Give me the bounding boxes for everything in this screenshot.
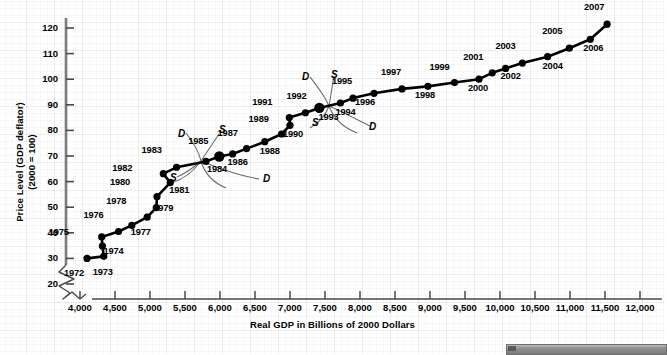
data-point-2007: [604, 21, 611, 28]
data-point-1996: [370, 90, 377, 97]
data-point-2001: [489, 69, 496, 76]
y-tick-label-30: 30: [28, 252, 58, 263]
y-tick-label-60: 60: [28, 176, 58, 187]
y-tick-label-120: 120: [28, 22, 58, 33]
data-point-2004: [544, 53, 551, 60]
x-axis-title: Real GDP in Billions of 2000 Dollars: [0, 319, 665, 330]
y-axis-title-line1: Price Level (GDP deflator): [14, 52, 26, 272]
data-point-2006: [587, 36, 594, 43]
data-point-label-1990: 1990: [283, 129, 303, 139]
data-point-1997: [398, 85, 405, 92]
demand-curve-label-lower-1993: D: [369, 121, 376, 132]
data-point-label-1986: 1986: [228, 157, 248, 167]
data-point-label-2000: 2000: [468, 83, 488, 93]
data-point-label-2006: 2006: [583, 43, 603, 53]
y-tick-label-70: 70: [28, 150, 58, 161]
demand-curve-label-lower-1985: D: [263, 173, 270, 184]
y-tick-label-50: 50: [28, 201, 58, 212]
data-point-1978: [144, 214, 151, 221]
data-point-1992: [302, 109, 309, 116]
data-point-label-1972: 1972: [64, 268, 84, 278]
data-point-label-1998: 1998: [415, 90, 435, 100]
data-point-label-1991: 1991: [252, 97, 272, 107]
data-series-line: [87, 24, 607, 258]
data-point-1998: [424, 83, 431, 90]
data-point-label-1984: 1984: [207, 164, 227, 174]
demand-supply-curves: [171, 76, 370, 188]
data-point-label-1992: 1992: [286, 91, 306, 101]
data-point-1972: [83, 255, 90, 262]
data-point-2000: [475, 76, 482, 83]
y-tick-label-20: 20: [28, 278, 58, 289]
data-point-label-1985: 1985: [188, 136, 208, 146]
data-point-1975: [98, 233, 105, 240]
data-point-label-2003: 2003: [495, 41, 515, 51]
supply-curve-label-1985: S: [219, 124, 226, 135]
data-point-1994: [337, 99, 344, 106]
data-point-label-1979: 1979: [153, 203, 173, 213]
data-point-label-1988: 1988: [260, 146, 280, 156]
data-point-2003: [519, 59, 526, 66]
data-point-label-2005: 2005: [542, 26, 562, 36]
data-point-1991: [286, 114, 293, 121]
demand-curve-label-1985: D: [178, 128, 185, 139]
supply-curve-label-lower-1985: S: [170, 172, 177, 183]
horizontal-scrollbar[interactable]: [506, 344, 667, 355]
data-point-label-1983: 1983: [142, 145, 162, 155]
data-point-1983: [173, 164, 180, 171]
demand-curve-label-1993: D: [302, 71, 309, 82]
data-point-label-1982: 1982: [112, 163, 132, 173]
data-point-1999: [451, 79, 458, 86]
data-point-1987: [243, 145, 250, 152]
data-point-2005: [566, 45, 573, 52]
data-point-label-2002: 2002: [501, 71, 521, 81]
supply-curve-label-1993: S: [331, 69, 338, 80]
data-point-label-1973: 1973: [93, 267, 113, 277]
data-point-markers: [83, 21, 610, 262]
y-tick-label-110: 110: [28, 48, 58, 59]
data-point-label-1981: 1981: [169, 185, 189, 195]
data-point-label-1999: 1999: [430, 62, 450, 72]
data-point-label-1978: 1978: [106, 196, 126, 206]
y-tick-label-90: 90: [28, 99, 58, 110]
data-point-label-1980: 1980: [110, 177, 130, 187]
data-point-label-1997: 1997: [381, 67, 401, 77]
scrollbar-thumb[interactable]: [508, 346, 516, 351]
data-point-label-1994: 1994: [335, 107, 355, 117]
supply-curve-label-lower-1993: S: [312, 117, 319, 128]
data-point-label-2001: 2001: [463, 52, 483, 62]
data-point-1976: [115, 228, 122, 235]
data-point-1985: [214, 151, 224, 161]
data-point-1988: [261, 138, 268, 145]
data-point-1990: [286, 122, 293, 129]
data-point-label-1989: 1989: [249, 114, 269, 124]
data-point-label-1977: 1977: [131, 227, 151, 237]
data-point-label-2007: 2007: [584, 2, 604, 12]
axes: [59, 18, 662, 299]
data-point-label-1974: 1974: [103, 246, 123, 256]
y-axis-title: Price Level (GDP deflator) (2000 = 100): [14, 52, 38, 272]
data-point-label-2004: 2004: [543, 61, 563, 71]
y-axis-title-line2: (2000 = 100): [26, 52, 38, 272]
data-point-label-1976: 1976: [84, 210, 104, 220]
y-tick-label-80: 80: [28, 124, 58, 135]
data-point-1980: [153, 193, 160, 200]
data-point-label-1975: 1975: [49, 227, 69, 237]
data-point-label-1996: 1996: [355, 97, 375, 107]
y-tick-label-100: 100: [28, 73, 58, 84]
x-tick-label-12000: 12,000: [618, 302, 662, 313]
data-point-1982: [160, 170, 167, 177]
